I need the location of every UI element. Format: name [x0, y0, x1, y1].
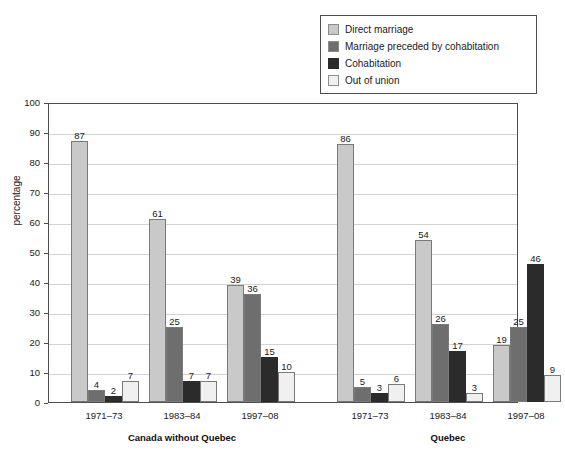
bar: [510, 327, 527, 402]
y-axis-title: percentage: [11, 161, 22, 241]
bar-value-label: 6: [384, 374, 409, 384]
bar-value-label: 7: [196, 371, 221, 381]
x-group-label: Canada without Quebec: [92, 433, 272, 443]
legend-label-marriage-preceded-by-cohabitation: Marriage preceded by cohabitation: [345, 41, 499, 52]
y-tick-label: 70: [29, 188, 40, 198]
legend-swatch-icon-direct-marriage: [328, 24, 339, 35]
bar-value-label: 3: [462, 383, 487, 393]
gridline: [49, 224, 517, 225]
chart-legend: Direct marriage Marriage preceded by coh…: [320, 15, 537, 94]
y-tick-label: 30: [29, 308, 40, 318]
bar-value-label: 61: [145, 209, 170, 219]
legend-label-out-of-union: Out of union: [345, 75, 399, 86]
bar-value-label: 87: [67, 131, 92, 141]
bar-value-label: 7: [118, 371, 143, 381]
x-tick-label: 1983–84: [142, 411, 222, 421]
bar: [278, 372, 295, 402]
bar-value-label: 9: [540, 365, 565, 375]
bar: [149, 219, 166, 402]
x-tick-label: 1971–73: [330, 411, 410, 421]
y-tick-label: 50: [29, 248, 40, 258]
y-tick-label: 60: [29, 218, 40, 228]
bar-value-label: 10: [274, 362, 299, 372]
legend-item-out-of-union: Out of union: [328, 72, 530, 88]
bar: [71, 141, 88, 402]
bar-value-label: 46: [523, 254, 548, 264]
bar: [105, 396, 122, 402]
y-tick-label: 90: [29, 128, 40, 138]
bar: [544, 375, 561, 402]
bar-value-label: 17: [445, 341, 470, 351]
bar: [388, 384, 405, 402]
legend-swatch-icon-out-of-union: [328, 75, 339, 86]
x-group-label: Quebec: [358, 433, 538, 443]
bar-value-label: 26: [428, 314, 453, 324]
bar: [337, 144, 354, 402]
bar-value-label: 36: [240, 284, 265, 294]
x-tick-label: 1971–73: [64, 411, 144, 421]
y-tick-label: 10: [29, 368, 40, 378]
y-tick-mark: [44, 403, 48, 404]
x-tick-label: 1983–84: [408, 411, 488, 421]
bar-value-label: 86: [333, 134, 358, 144]
gridline: [49, 164, 517, 165]
y-tick-label: 40: [29, 278, 40, 288]
plot-area: 87613986541942536526252715317467710639: [48, 103, 518, 403]
bar: [449, 351, 466, 402]
legend-item-marriage-preceded-by-cohabitation: Marriage preceded by cohabitation: [328, 38, 530, 54]
x-tick-label: 1997–08: [220, 411, 300, 421]
gridline: [49, 254, 517, 255]
legend-label-direct-marriage: Direct marriage: [345, 24, 413, 35]
gridline: [49, 284, 517, 285]
bar: [466, 393, 483, 402]
bar: [227, 285, 244, 402]
bar: [432, 324, 449, 402]
legend-swatch-icon-marriage-preceded-by-cohabitation: [328, 41, 339, 52]
bar: [527, 264, 544, 402]
legend-item-cohabitation: Cohabitation: [328, 55, 530, 71]
x-tick-label: 1997–08: [486, 411, 565, 421]
bar: [200, 381, 217, 402]
bar-value-label: 15: [257, 347, 282, 357]
y-axis: 0102030405060708090100: [0, 103, 48, 403]
bar: [166, 327, 183, 402]
bar-value-label: 25: [162, 317, 187, 327]
legend-item-direct-marriage: Direct marriage: [328, 21, 530, 37]
bar: [493, 345, 510, 402]
y-tick-label: 20: [29, 338, 40, 348]
bar: [122, 381, 139, 402]
gridline: [49, 194, 517, 195]
bar: [371, 393, 388, 402]
y-tick-label: 80: [29, 158, 40, 168]
legend-label-cohabitation: Cohabitation: [345, 58, 401, 69]
y-tick-label: 0: [35, 398, 40, 408]
y-tick-label: 100: [24, 98, 40, 108]
gridline: [49, 134, 517, 135]
legend-swatch-icon-cohabitation: [328, 58, 339, 69]
bar: [183, 381, 200, 402]
bar-value-label: 54: [411, 230, 436, 240]
